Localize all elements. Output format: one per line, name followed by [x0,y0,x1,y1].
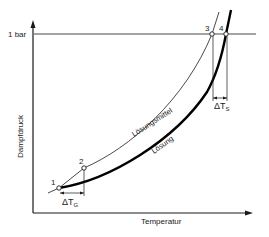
point-2-label: 2 [79,157,84,166]
y-axis [31,20,36,213]
point-4-marker [224,32,228,36]
solvent-curve [48,12,219,193]
one-bar-label: 1 bar [8,30,27,39]
x-axis [33,211,253,216]
vapor-pressure-diagram: 1 bar Dampfdruck Temperatur Lösungsmitte… [0,0,269,237]
point-2-marker [82,166,86,170]
y-axis-label: Dampfdruck [16,114,25,158]
point-1-label: 1 [51,178,56,187]
point-4-label: 4 [219,24,224,33]
delta-ts-label: ΔTS [214,101,230,112]
x-axis-arrow-icon [245,211,253,216]
delta-ts-bracket [213,36,227,101]
solution-curve-label: Lösung [150,134,175,156]
delta-tg-label: ΔTG [62,197,79,208]
point-3-marker [210,32,214,36]
x-axis-label: Temperatur [141,217,182,226]
y-axis-arrow-icon [31,20,36,28]
point-3-label: 3 [205,24,210,33]
solution-curve [59,10,231,188]
point-1-marker [57,186,61,190]
